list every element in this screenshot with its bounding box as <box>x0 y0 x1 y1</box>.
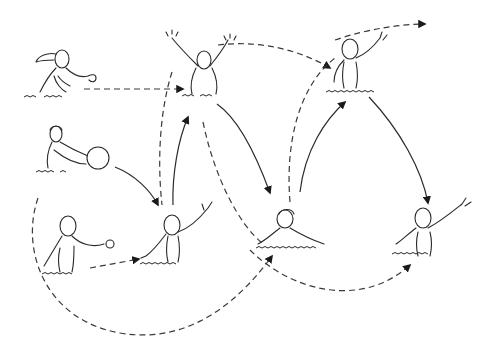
player-arms-raised <box>166 30 236 96</box>
move-p6-p7 <box>289 58 335 202</box>
move-p3-p5 <box>90 259 139 268</box>
player-ball-holder <box>36 126 109 172</box>
move-p4-down <box>160 72 172 205</box>
player-swimmer <box>256 210 324 249</box>
drill-diagram: Water polo passing and movement drill ba… <box>0 0 488 351</box>
move-p4-p7 <box>218 44 330 68</box>
ball-icon <box>87 147 109 169</box>
move-p4-p6 <box>203 122 262 243</box>
pass-p6-p7 <box>300 102 345 192</box>
pass-p4-p6 <box>217 104 270 193</box>
move-p5-p8 <box>250 250 410 291</box>
player-reaching <box>140 202 212 264</box>
movement-paths <box>32 24 425 335</box>
diagram-canvas <box>0 0 488 351</box>
pass-paths <box>115 97 428 205</box>
pass-p7-p8 <box>369 97 428 203</box>
player-reaching-right <box>392 198 471 256</box>
player-ponytail-thrower <box>24 50 96 97</box>
pass-p5-p4 <box>173 117 188 205</box>
pass-p2-p5 <box>115 167 158 205</box>
player-waving <box>326 32 387 92</box>
